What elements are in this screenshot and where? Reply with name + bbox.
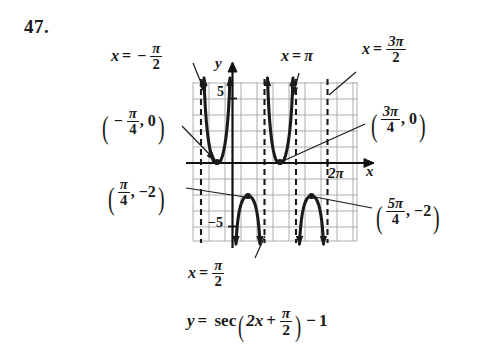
x-tick-label-2pi: 2π: [328, 166, 344, 181]
y-coordinate: 0: [148, 112, 156, 129]
problem-number: 47.: [24, 16, 49, 38]
fraction-numerator: π: [212, 258, 224, 273]
fraction-pi-over-4: π 4: [127, 106, 139, 137]
fraction-pi-over-2: π 2: [280, 305, 293, 338]
tick-marks: [228, 99, 328, 227]
fraction-numerator: 3π: [386, 34, 405, 49]
equation-y: y: [187, 311, 195, 330]
label-x: x: [281, 47, 289, 64]
fraction-numerator: 5π: [386, 196, 405, 211]
label-asymptote-neg-half-pi: x=− π 2: [111, 41, 163, 72]
x-axis-label: x: [366, 164, 374, 179]
label-point-5pi-over-4: ( 5π 4 , −2): [374, 196, 442, 233]
fraction-numerator: 3π: [381, 104, 400, 119]
y-coordinate: −2: [414, 202, 431, 219]
fraction-3pi-over-2: 3π 2: [386, 34, 405, 65]
label-point-neg-pi-over-4: (− π 4 , 0): [100, 106, 166, 143]
y-tick-label-neg5: −5: [208, 216, 223, 230]
branch-down-1: [236, 196, 260, 244]
coordinate-separator: ,: [401, 110, 409, 127]
left-paren: (: [371, 109, 378, 141]
label-x: x: [111, 47, 119, 64]
function-equation: y= sec(2x+ π 2 )−1: [187, 305, 327, 341]
fraction-3pi-over-4: 3π 4: [381, 104, 400, 135]
pi-symbol: π: [304, 47, 313, 64]
label-x: x: [188, 264, 196, 281]
fraction-denominator: 4: [381, 119, 400, 135]
fraction-denominator: 4: [118, 192, 130, 208]
y-coordinate: 0: [409, 110, 417, 127]
label-point-3pi-over-4: ( 3π 4 , 0): [369, 104, 428, 141]
vertex-5pi-over-4: [308, 193, 314, 199]
fraction-denominator: 2: [212, 273, 224, 289]
right-paren: ): [295, 311, 301, 341]
fraction-pi-over-4: π 4: [118, 177, 130, 208]
equation-argument: 2x: [246, 311, 263, 330]
fraction-5pi-over-4: 5π 4: [386, 196, 405, 227]
y-tick-label-5: 5: [217, 85, 224, 99]
fraction-numerator: π: [127, 106, 139, 121]
y-coordinate: −2: [139, 183, 156, 200]
minus-sign: −: [134, 47, 149, 64]
branch-up-2: [268, 78, 294, 163]
coordinate-separator: ,: [406, 202, 414, 219]
label-asymptote-three-half-pi: x= 3π 2: [362, 34, 407, 65]
fraction-pi-over-2: π 2: [212, 258, 224, 289]
fraction-denominator: 2: [280, 321, 293, 338]
equals-sign: =: [196, 264, 211, 281]
equals-sign: =: [289, 47, 304, 64]
vertex-3pi-over-4: [277, 159, 283, 165]
fraction-denominator: 4: [127, 121, 139, 137]
fraction-numerator: π: [118, 177, 130, 192]
left-paren: (: [108, 182, 115, 214]
right-paren: ): [158, 182, 165, 214]
right-paren: ): [419, 109, 426, 141]
fraction-pi-over-2: π 2: [150, 41, 162, 72]
equals-sign: =: [370, 40, 385, 57]
x-axis-label-text: x: [366, 163, 374, 179]
fraction-numerator: π: [280, 305, 293, 321]
minus-sign: −: [111, 112, 126, 129]
label-asymptote-pi: x=π: [281, 48, 313, 64]
fraction-denominator: 4: [386, 211, 405, 227]
left-paren: (: [102, 111, 109, 143]
left-paren: (: [238, 311, 244, 341]
fraction-numerator: π: [150, 41, 162, 56]
y-axis-arrow: [228, 62, 237, 72]
y-axis-label-text: y: [215, 55, 222, 71]
vertex-points: [214, 159, 315, 199]
right-paren: ): [433, 201, 440, 233]
fraction-denominator: 2: [386, 49, 405, 65]
sec-function-name: sec: [214, 311, 236, 330]
fraction-denominator: 2: [150, 56, 162, 72]
equals-sign: =: [119, 47, 134, 64]
left-paren: (: [376, 201, 383, 233]
vertex-pi-over-4: [245, 193, 251, 199]
right-paren: ): [158, 111, 165, 143]
vertex-neg-pi-over-4: [214, 159, 220, 165]
label-point-pi-over-4: ( π 4 , −2): [106, 177, 166, 214]
branch-down-2: [300, 196, 324, 244]
x-tick-label-2pi-text: 2π: [328, 165, 344, 181]
label-asymptote-half-pi: x= π 2: [188, 258, 225, 289]
y-axis-label: y: [215, 56, 222, 71]
label-x: x: [362, 40, 370, 57]
plus-sign: +: [263, 311, 279, 330]
equals-sign: =: [195, 311, 211, 330]
constant-one: 1: [319, 311, 328, 330]
coordinate-separator: ,: [131, 183, 139, 200]
minus-sign: −: [303, 311, 319, 330]
coordinate-separator: ,: [140, 112, 148, 129]
